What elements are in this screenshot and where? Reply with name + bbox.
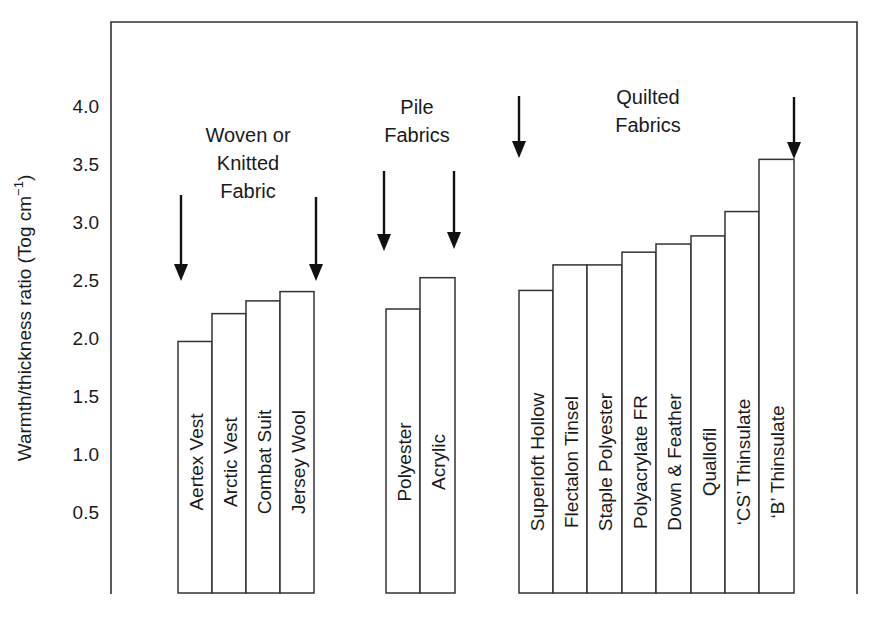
group-label: Knitted [217,152,279,174]
down-arrow-icon [512,96,526,158]
bar-label: Aertex Vest [186,413,207,511]
bar [691,236,725,593]
group-label: Quilted [616,86,679,108]
y-axis-label-superscript: −1 [11,181,26,196]
bar-label: Superloft Hollow [527,393,548,532]
bars: Aertex VestArctic VestCombat SuitJersey … [178,159,794,593]
y-axis-ticks: 0.51.01.52.02.53.03.54.0 [73,96,99,523]
bar-group-0: Aertex VestArctic VestCombat SuitJersey … [178,292,314,593]
y-tick-label: 2.5 [73,270,99,291]
bar-label: Arctic Vest [220,416,241,506]
y-tick-label: 4.0 [73,96,99,117]
group-labels: Woven orKnittedFabricPileFabricsQuiltedF… [205,86,680,202]
y-axis-label: Warmth/thickness ratio (Tog cm−1) [11,175,35,462]
down-arrow-icon [787,97,801,159]
bar [759,159,794,593]
y-tick-label: 3.5 [73,154,99,175]
group-label: Fabrics [615,114,681,136]
group-label: Pile [400,96,433,118]
bar-label: Combat Suit [254,409,275,514]
y-tick-label: 1.5 [73,386,99,407]
group-label: Woven or [205,124,291,146]
bar-label: Quallofil [699,428,720,497]
y-tick-label: 1.0 [73,444,99,465]
bar-label: Polyacrylate FR [630,395,651,529]
group-label: Fabrics [384,124,450,146]
bar-label: ‘CS’ Thinsulate [733,399,754,526]
bar-label: Down & Feather [664,393,685,531]
down-arrow-icon [447,171,461,249]
bar-label: ‘B’ Thinsulate [767,405,788,518]
bar-label: Polyester [394,422,415,502]
y-axis-label-main: Warmth/thickness ratio (Tog cm [14,196,35,461]
warmth-thickness-bar-chart: 0.51.01.52.02.53.03.54.0 Warmth/thicknes… [0,0,874,622]
y-tick-label: 3.0 [73,212,99,233]
y-axis-label-close: ) [14,175,35,181]
bar-label: Acrylic [428,434,449,490]
bar-label: Flectalon Tinsel [561,396,582,528]
bar-group-1: PolyesterAcrylic [386,278,455,593]
y-tick-label: 2.0 [73,328,99,349]
group-label: Fabric [220,180,276,202]
down-arrow-icon [309,197,323,281]
bar-group-2: Superloft HollowFlectalon TinselStaple P… [519,159,794,593]
bar-label: Staple Polyester [595,392,616,531]
down-arrow-icon [174,195,188,281]
y-tick-label: 0.5 [73,502,99,523]
down-arrow-icon [377,171,391,251]
bar-label: Jersey Wool [288,410,309,514]
